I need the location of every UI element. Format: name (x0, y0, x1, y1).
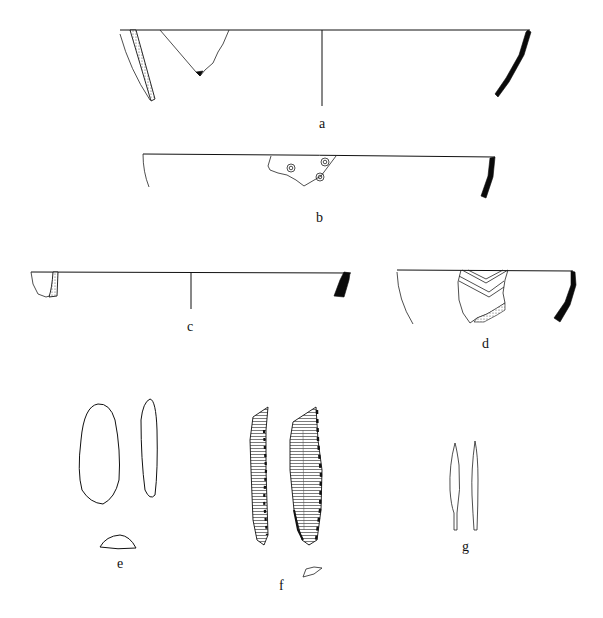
item-b-label: b (316, 210, 323, 225)
item-g-label: g (462, 539, 469, 554)
item-e-label: e (117, 556, 123, 571)
item-c-drawing (31, 272, 351, 309)
item-a-label: a (319, 116, 326, 131)
finds-plate: a b c d (0, 0, 603, 618)
item-c-label: c (187, 319, 193, 334)
item-f-label: f (279, 578, 284, 593)
item-b-drawing (143, 154, 495, 198)
item-a-drawing (120, 30, 531, 106)
item-e-drawing (79, 399, 157, 549)
item-f-drawing (250, 407, 322, 577)
item-g-drawing (450, 441, 478, 530)
item-d-label: d (482, 336, 489, 351)
item-d-drawing (397, 270, 576, 324)
